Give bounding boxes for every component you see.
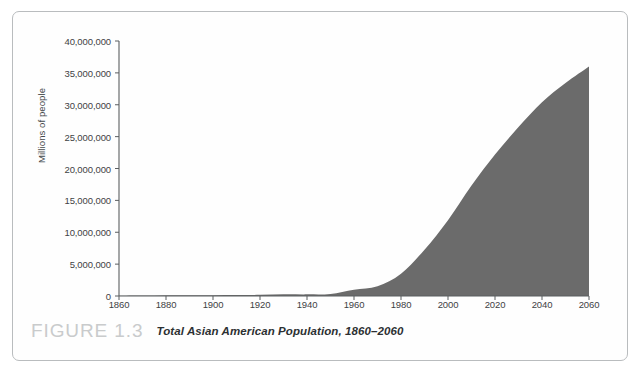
area-chart-plot [13,12,629,312]
figure-caption: FIGURE 1.3 Total Asian American Populati… [31,314,611,348]
figure-caption-text: Total Asian American Population, 1860–20… [156,325,403,337]
chart-area: Millions of people 05,000,00010,000,0001… [13,12,629,312]
population-area-series [119,67,589,297]
figure-frame: Millions of people 05,000,00010,000,0001… [12,11,628,361]
figure-number-label: FIGURE 1.3 [31,320,143,342]
